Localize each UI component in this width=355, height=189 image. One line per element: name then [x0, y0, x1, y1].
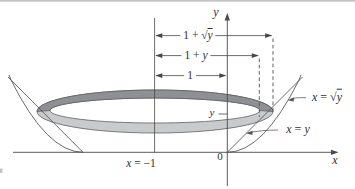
x-axis-label: x [332, 154, 337, 167]
origin-label: 0 [217, 151, 223, 163]
washer-method-diagram: y x 1 + √y 1 + y 1 y x = √y x = y x = −1… [0, 0, 355, 189]
dim-inner-radius-label: 1 + y [181, 49, 210, 61]
dim-inner-right-arrowhead [252, 53, 259, 58]
dim-inner-left-arrowhead [155, 53, 162, 58]
dim-outer-right-arrowhead [265, 33, 272, 38]
diagram-canvas [0, 0, 355, 189]
curve-sqrt-label: x = √y [312, 91, 342, 104]
curve-line-label: x = y [286, 123, 309, 136]
dim-one-left-arrowhead [155, 73, 162, 78]
dim-outer-radius-label: 1 + √y [180, 29, 215, 41]
line-label-leader [249, 130, 279, 133]
y-axis-label: y [213, 6, 218, 19]
dim-one-right-arrowhead [219, 73, 226, 78]
axis-of-rotation-label: x = −1 [126, 157, 156, 169]
dim-one-label: 1 [184, 69, 196, 81]
dim-outer-left-arrowhead [155, 33, 162, 38]
page-artifact [0, 169, 2, 174]
y-axis-arrowhead [225, 13, 230, 21]
y-height-label: y [210, 107, 215, 119]
